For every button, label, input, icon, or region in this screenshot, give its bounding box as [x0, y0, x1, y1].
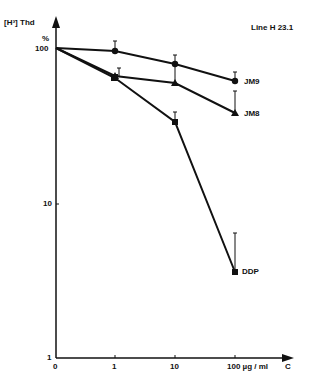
chart-title: Line H 23.1 [251, 23, 293, 32]
x-axis-name: C [285, 362, 291, 371]
x-tick-100: 100 µg / ml [227, 362, 268, 371]
x-axis-arrow-icon [282, 354, 294, 362]
y-tick-1: 1 [47, 353, 51, 362]
y-tick-100: 100 [35, 44, 48, 53]
x-tick-1: 1 [112, 362, 116, 371]
y-unit: % [42, 34, 49, 43]
y-axis-arrow-icon [52, 16, 60, 28]
chart-canvas [0, 0, 311, 392]
series-label-jm9: JM9 [244, 77, 260, 86]
series-label-ddp: DDP [242, 267, 259, 276]
x-tick-0: 0 [53, 362, 57, 371]
y-tick-10: 10 [43, 199, 52, 208]
y-axis-title: [H³] Thd [4, 18, 35, 27]
x-tick-10: 10 [170, 362, 179, 371]
series-label-jm8: JM8 [244, 109, 260, 118]
series-ddp [56, 48, 238, 275]
